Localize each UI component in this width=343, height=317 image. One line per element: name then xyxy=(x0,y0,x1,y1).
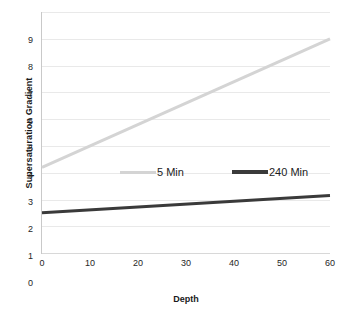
y-tick-label-2: 2 xyxy=(0,224,33,234)
legend-swatch-240-min xyxy=(232,170,268,174)
x-tick-label-40: 40 xyxy=(219,258,249,268)
chart-legend: 5 Min 240 Min xyxy=(42,162,330,182)
series-line-240-min xyxy=(42,195,330,212)
y-tick-label-7: 7 xyxy=(0,89,33,99)
x-tick-label-20: 20 xyxy=(123,258,153,268)
gridline-0 xyxy=(42,253,330,254)
x-tick-label-0: 0 xyxy=(27,258,57,268)
legend-item-240-min[interactable]: 240 Min xyxy=(232,162,308,182)
y-axis-title: Supersaturation Gradient xyxy=(24,48,34,218)
chart-figure: Supersaturation Gradient 10 9 8 7 6 5 4 … xyxy=(0,0,343,317)
x-tick-label-30: 30 xyxy=(171,258,201,268)
y-tick-label-8: 8 xyxy=(0,62,33,72)
x-axis-title: Depth xyxy=(42,294,330,304)
x-tick-label-50: 50 xyxy=(267,258,297,268)
y-tick-label-3: 3 xyxy=(0,197,33,207)
series-line-5-min xyxy=(42,39,330,168)
y-tick-label-0: 0 xyxy=(0,278,33,288)
x-tick-label-60: 60 xyxy=(315,258,343,268)
legend-label-240-min: 240 Min xyxy=(269,166,308,178)
y-tick-label-5: 5 xyxy=(0,143,33,153)
legend-swatch-5-min xyxy=(120,171,156,174)
y-tick-label-9: 9 xyxy=(0,35,33,45)
legend-label-5-min: 5 Min xyxy=(157,166,184,178)
series-lines xyxy=(42,12,330,253)
y-tick-label-6: 6 xyxy=(0,116,33,126)
y-tick-label-4: 4 xyxy=(0,170,33,180)
plot-area xyxy=(42,12,330,253)
legend-item-5-min[interactable]: 5 Min xyxy=(120,162,184,182)
x-tick-label-10: 10 xyxy=(75,258,105,268)
